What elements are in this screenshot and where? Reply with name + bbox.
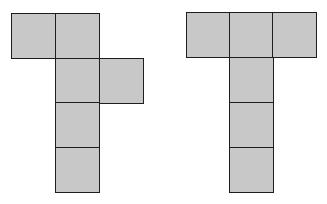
net-square [55, 58, 100, 104]
net-square [229, 57, 274, 103]
net-square [99, 58, 144, 104]
net-square [229, 147, 274, 193]
net-square [229, 102, 274, 148]
net-square [55, 102, 100, 148]
net-square [11, 13, 56, 59]
net-square [272, 12, 317, 58]
net-square [186, 12, 231, 58]
net-square [229, 12, 274, 58]
cube-nets-diagram [0, 0, 327, 204]
net-square [55, 147, 100, 193]
net-square [55, 13, 100, 59]
